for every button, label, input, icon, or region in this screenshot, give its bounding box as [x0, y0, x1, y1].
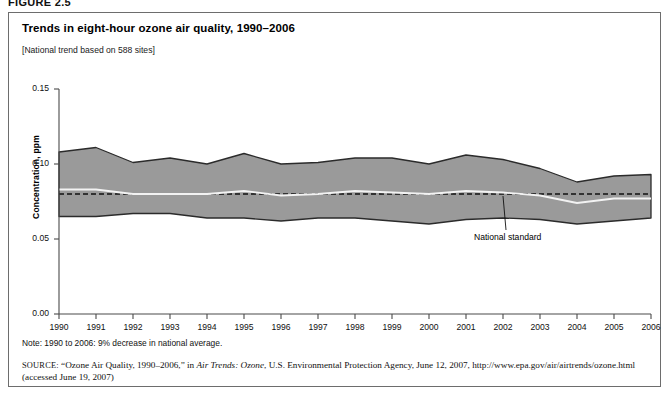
x-axis-tick-label: 1994 [187, 322, 227, 332]
x-axis-tick-label: 2001 [446, 322, 486, 332]
x-axis-tick-label: 2003 [520, 322, 560, 332]
source-italic-title: Air Trends: Ozone [196, 360, 264, 370]
x-axis-tick-label: 1996 [261, 322, 301, 332]
chart-source: SOURCE: “Ozone Air Quality, 1990–2006,” … [22, 360, 642, 383]
x-axis-tick-label: 2000 [409, 322, 449, 332]
y-axis-tick-label: 0.10 [19, 158, 49, 168]
y-axis-label: Concentration, ppm [31, 117, 41, 237]
figure-label: FIGURE 2.5 [8, 0, 71, 8]
source-text-part1: “Ozone Air Quality, 1990–2006,” in [59, 360, 197, 370]
x-axis-tick-label: 2006 [631, 322, 671, 332]
x-axis-tick-label: 2002 [483, 322, 523, 332]
source-prefix: SOURCE: [22, 361, 59, 370]
y-axis-tick-label: 0.05 [19, 233, 49, 243]
x-axis-tick-label: 1995 [224, 322, 264, 332]
x-axis-tick-label: 1990 [39, 322, 79, 332]
chart-subtitle: [National trend based on 588 sites] [22, 45, 155, 55]
x-axis-tick-label: 1999 [372, 322, 412, 332]
x-axis-tick-label: 1993 [150, 322, 190, 332]
x-axis-tick-label: 1997 [298, 322, 338, 332]
national-standard-annotation: National standard [474, 232, 541, 242]
x-axis-tick-label: 1998 [335, 322, 375, 332]
x-axis-tick-label: 2005 [594, 322, 634, 332]
chart-note: Note: 1990 to 2006: 9% decrease in natio… [22, 338, 222, 348]
chart-title: Trends in eight-hour ozone air quality, … [22, 22, 295, 34]
x-axis-tick-label: 2004 [557, 322, 597, 332]
x-axis-tick-label: 1991 [76, 322, 116, 332]
x-axis-tick-label: 1992 [113, 322, 153, 332]
y-axis-tick-label: 0.00 [19, 308, 49, 318]
y-axis-tick-label: 0.15 [19, 83, 49, 93]
